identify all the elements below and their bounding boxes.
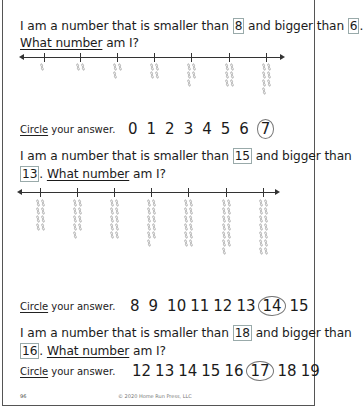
chain-link-icon (152, 207, 156, 215)
tick-mark (188, 188, 189, 197)
chain-link-icon (227, 231, 231, 239)
tick-mark (114, 188, 115, 197)
question-text: I am a number that is smaller than (20, 326, 233, 340)
answer-choice-9[interactable]: 9 (149, 297, 159, 315)
chain-link-icon (110, 231, 114, 239)
question-3-line-2: 16. What number am I? (20, 343, 166, 360)
chain-link-icon (78, 223, 82, 231)
question-1-line-2: What number am I? (20, 35, 139, 52)
chain-link-icon (76, 63, 80, 71)
answer-choice-13[interactable]: 13 (155, 362, 174, 380)
chain-link-icon (41, 199, 45, 207)
chain-link-icon (73, 215, 77, 223)
answer-choice-6[interactable]: 6 (239, 120, 249, 138)
chain-link-icon (267, 79, 271, 87)
chain-link-icon (73, 223, 77, 231)
chain-link-icon (225, 63, 229, 71)
tally-group (113, 63, 122, 79)
answer-choice-15[interactable]: 15 (201, 362, 220, 380)
chain-link-icon (264, 239, 268, 247)
answer-choice-14[interactable]: 14 (178, 362, 197, 380)
chain-link-icon (40, 63, 44, 71)
answer-choice-13[interactable]: 13 (236, 297, 255, 315)
answer-choice-12[interactable]: 12 (213, 297, 232, 315)
chain-link-icon (41, 207, 45, 215)
chain-link-icon (110, 199, 114, 207)
tick-mark (117, 53, 118, 62)
question-text: and bigger than (252, 326, 352, 340)
chain-link-icon (41, 223, 45, 231)
boxed-upper-number: 15 (233, 148, 252, 164)
chain-link-icon (150, 63, 154, 71)
chain-link-icon (222, 247, 226, 255)
arrow-left-icon (17, 189, 22, 195)
chain-link-icon (147, 231, 151, 239)
chain-link-icon (36, 199, 40, 207)
tick-mark (44, 53, 45, 62)
question-1-line-1: I am a number that is smaller than 8 and… (20, 18, 363, 35)
answer-choice-0[interactable]: 0 (128, 120, 138, 138)
answer-choice-2[interactable]: 2 (165, 120, 175, 138)
chain-link-icon (192, 63, 196, 71)
tick-mark (77, 188, 78, 197)
question-2-line-2: 13. What number am I? (20, 166, 166, 183)
number-line-1 (23, 57, 281, 58)
answer-choice-19[interactable]: 19 (301, 362, 320, 380)
chain-link-icon (262, 79, 266, 87)
question-text: . (39, 167, 43, 181)
chain-link-icon (227, 199, 231, 207)
answer-choices-2: 89101112131415 (130, 296, 313, 316)
chain-link-icon (222, 231, 226, 239)
chain-link-icon (147, 223, 151, 231)
boxed-upper-number: 18 (233, 325, 252, 341)
chain-link-icon (189, 239, 193, 247)
chain-link-icon (259, 207, 263, 215)
tick-mark (80, 53, 81, 62)
chain-link-icon (267, 63, 271, 71)
answer-choice-12[interactable]: 12 (132, 362, 151, 380)
answer-choice-10[interactable]: 10 (167, 297, 186, 315)
answer-choice-15[interactable]: 15 (290, 297, 309, 315)
chain-link-icon (230, 63, 234, 71)
answer-choice-5[interactable]: 5 (221, 120, 231, 138)
chain-link-icon (150, 71, 154, 79)
tally-group (184, 199, 193, 247)
answer-choice-4[interactable]: 4 (202, 120, 212, 138)
chain-link-icon (152, 231, 156, 239)
chain-link-icon (115, 199, 119, 207)
chain-link-icon (259, 215, 263, 223)
chain-link-icon (113, 63, 117, 71)
chain-link-icon (267, 71, 271, 79)
chain-link-icon (184, 199, 188, 207)
answer-choices-3: 1213141516171819 (132, 361, 324, 381)
chain-link-icon (152, 223, 156, 231)
chain-link-icon (222, 215, 226, 223)
tick-mark (266, 53, 267, 62)
chain-link-icon (264, 223, 268, 231)
answer-choice-8[interactable]: 8 (130, 297, 140, 315)
answer-choice-3[interactable]: 3 (184, 120, 194, 138)
chain-link-icon (110, 215, 114, 223)
answer-choice-14[interactable]: 14 (258, 296, 285, 316)
copyright: © 2020 Home Run Press, LLC (118, 393, 192, 399)
chain-link-icon (147, 215, 151, 223)
answer-choice-16[interactable]: 16 (224, 362, 243, 380)
answer-choice-17[interactable]: 17 (246, 361, 273, 381)
answer-choice-11[interactable]: 11 (190, 297, 209, 315)
chain-link-icon (225, 79, 229, 87)
chain-link-icon (36, 223, 40, 231)
chain-link-icon (230, 79, 234, 87)
tally-group (187, 63, 196, 87)
answer-choice-1[interactable]: 1 (147, 120, 157, 138)
chain-link-icon (222, 207, 226, 215)
question-text: I am a number that is smaller than (20, 19, 233, 33)
chain-link-icon (259, 239, 263, 247)
tick-mark (154, 53, 155, 62)
circle-word: Circle (20, 124, 48, 135)
answer-choice-18[interactable]: 18 (278, 362, 297, 380)
boxed-upper-number: 8 (233, 18, 245, 34)
chain-link-icon (187, 79, 191, 87)
answer-choice-7[interactable]: 7 (257, 119, 275, 139)
tick-mark (191, 53, 192, 62)
chain-link-icon (189, 223, 193, 231)
